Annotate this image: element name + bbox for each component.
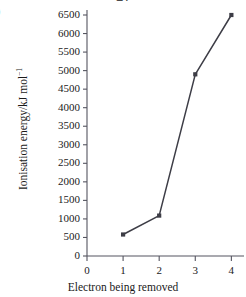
series-data-point xyxy=(229,13,233,17)
series-data-point xyxy=(121,232,125,236)
series-data-point xyxy=(157,213,161,217)
axes xyxy=(87,10,244,256)
plot-area xyxy=(0,0,246,297)
series-data-point xyxy=(193,72,197,76)
data-series xyxy=(121,13,233,237)
ionisation-energy-chart-figure: gy ) Ionisation energy/kJ mol−1 Electron… xyxy=(0,0,246,297)
series-line xyxy=(123,15,231,235)
